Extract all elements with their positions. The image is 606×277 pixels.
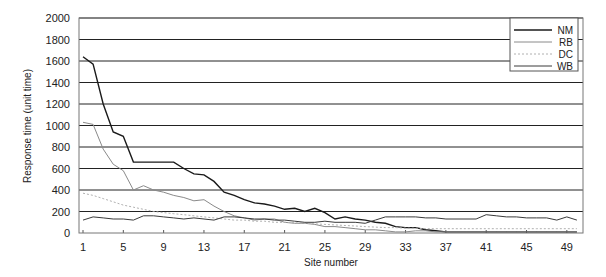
y-tick-label: 600 [52,163,70,175]
x-tick-label: 17 [238,241,250,253]
y-axis-title: Response time (unit time) [22,69,33,183]
y-tick-label: 1000 [46,120,70,132]
x-tick-label: 9 [161,241,167,253]
x-tick-label: 5 [120,241,126,253]
legend-label-rb: RB [559,37,573,48]
y-tick-label: 1800 [46,34,70,46]
y-tick-label: 1200 [46,98,70,110]
y-tick-label: 0 [64,227,70,239]
y-tick-label: 1400 [46,77,70,89]
x-tick-label: 37 [440,241,452,253]
x-tick-label: 13 [198,241,210,253]
legend-label-dc: DC [559,49,573,60]
gridlines [79,18,583,212]
x-tick-label: 45 [520,241,532,253]
legend-label-nm: NM [557,25,573,36]
x-tick-label: 33 [399,241,411,253]
y-tick-label: 800 [52,141,70,153]
response-time-chart: 0200400600800100012001400160018002000 15… [0,0,606,277]
y-tick-label: 400 [52,184,70,196]
y-tick-label: 1600 [46,55,70,67]
series-line-dc [83,193,577,229]
y-tick-label: 200 [52,206,70,218]
legend-label-wb: WB [557,61,573,72]
y-axis-ticks: 0200400600800100012001400160018002000 [46,12,70,239]
legend: NM RB DC WB [510,18,578,72]
x-tick-label: 41 [480,241,492,253]
x-tick-label: 21 [278,241,290,253]
x-tick-label: 29 [359,241,371,253]
x-tick-label: 1 [80,241,86,253]
y-tick-label: 2000 [46,12,70,24]
x-axis-title: Site number [304,257,359,268]
x-tick-label: 49 [561,241,573,253]
x-tick-label: 25 [319,241,331,253]
